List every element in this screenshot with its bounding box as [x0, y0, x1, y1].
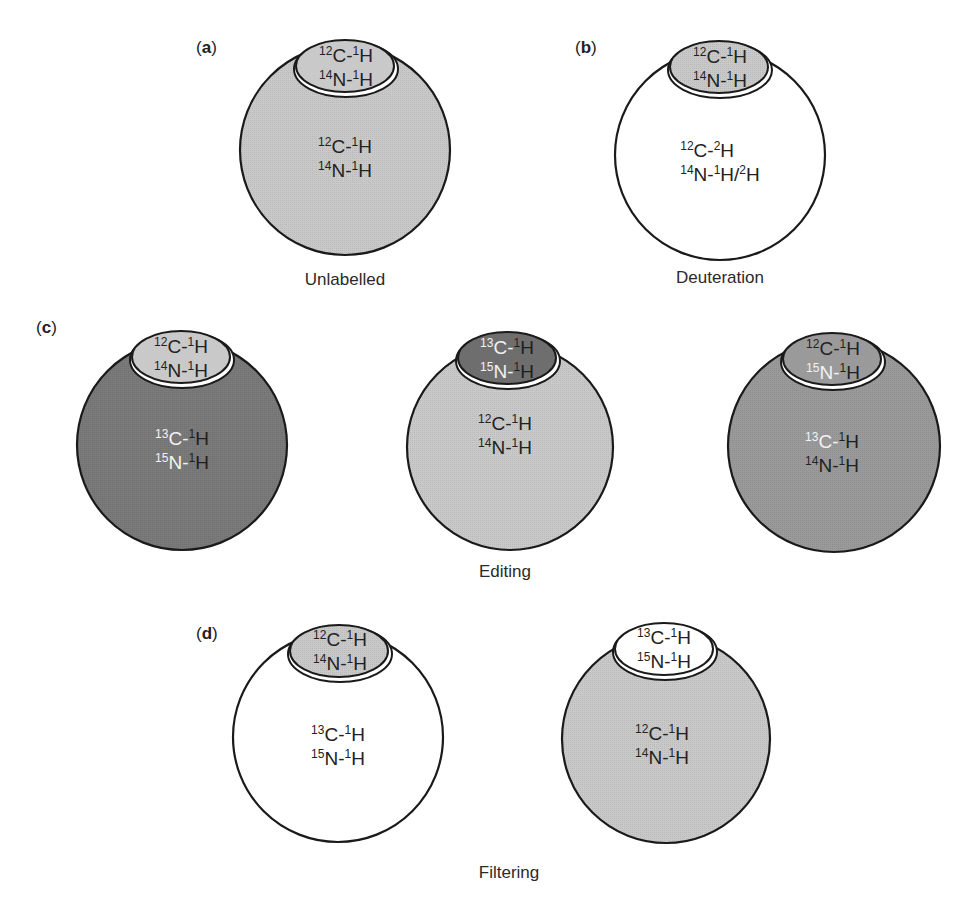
panel-d-left-body-label: 13C-1H 15N-1H: [311, 724, 365, 772]
caption-unlabelled: Unlabelled: [305, 270, 385, 290]
panel-c-right-body-label: 13C-1H 14N-1H: [805, 431, 859, 479]
panel-a-letter: a: [202, 38, 211, 57]
caption-filtering: Filtering: [479, 863, 539, 883]
panel-b-letter: b: [581, 38, 591, 57]
panel-label-c: (c): [36, 318, 57, 338]
caption-deuteration: Deuteration: [676, 268, 764, 288]
panel-c-letter: c: [42, 318, 51, 337]
panel-a-cap-label: 12C-1H 14N-1H: [319, 45, 373, 93]
panel-c-middle-body-label: 12C-1H 14N-1H: [478, 413, 532, 461]
panel-c-middle-cap-label: 13C-1H 15N-1H: [480, 337, 534, 385]
panel-c-left-cap-label: 12C-1H 14N-1H: [154, 336, 208, 384]
panel-d-right-body-label: 12C-1H 14N-1H: [635, 723, 689, 771]
caption-editing: Editing: [479, 562, 531, 582]
panel-label-d: (d): [196, 624, 218, 644]
panel-d-right-cap-label: 13C-1H 15N-1H: [637, 627, 691, 675]
panel-label-a: (a): [196, 38, 217, 58]
panel-d-letter: d: [202, 624, 212, 643]
panel-d-left-cap-label: 12C-1H 14N-1H: [313, 629, 367, 677]
panel-b-cap-label: 12C-1H 14N-1H: [693, 46, 747, 94]
panel-a-body-label: 12C-1H 14N-1H: [318, 136, 372, 184]
panel-label-b: (b): [575, 38, 597, 58]
panel-c-right-cap-label: 12C-1H 15N-1H: [806, 338, 860, 386]
panel-b-body-label: 12C-2H 14N-1H/2H: [680, 140, 760, 188]
panel-c-left-body-label: 13C-1H 15N-1H: [155, 428, 209, 476]
